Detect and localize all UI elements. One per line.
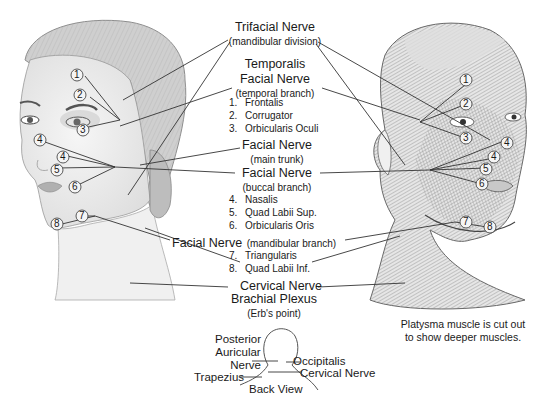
right-face-muscle-illustration (370, 23, 526, 309)
marker-7: 7 (79, 209, 85, 222)
marker-4a: 4 (504, 136, 510, 149)
marker-4b: 4 (491, 150, 497, 163)
marker-1: 1 (74, 68, 80, 81)
list-buccal-muscles: 4.Nasalis 5.Quad Labii Sup. 6.Orbiculari… (229, 193, 317, 232)
label-temporalis: Temporalis Facial Nerve (temporal branch… (210, 57, 340, 100)
marker-5: 5 (54, 163, 60, 176)
marker-1: 1 (463, 73, 469, 86)
marker-4b: 4 (60, 150, 66, 163)
label-back-view: Back View (249, 383, 302, 396)
label-trapezius: Trapezius (194, 371, 244, 384)
label-cervical-nerve-back: Cervical Nerve (300, 367, 375, 380)
label-facial-main-trunk: Facial Nerve (main trunk) (232, 138, 322, 166)
label-trifacial-nerve: Trifacial Nerve (mandibular division) (210, 20, 340, 48)
marker-8: 8 (487, 220, 493, 233)
label-posterior-auricular-nerve: Posterior Auricular Nerve (213, 333, 263, 372)
marker-5: 5 (483, 162, 489, 175)
marker-8: 8 (54, 217, 60, 230)
list-temporal-muscles: 1.Frontalis 2.Corrugator 3.Orbicularis O… (229, 96, 318, 135)
marker-3: 3 (80, 123, 86, 136)
marker-7: 7 (463, 215, 469, 228)
list-mandibular-muscles: 7.Triangularis 8.Quad Labii Inf. (229, 249, 310, 275)
label-brachial-plexus: Brachial Plexus (Erb's point) (228, 292, 320, 320)
label-facial-buccal: Facial Nerve (buccal branch) (232, 166, 322, 194)
marker-4a: 4 (37, 133, 43, 146)
marker-2: 2 (463, 97, 469, 110)
marker-6: 6 (479, 177, 485, 190)
caption-platysma: Platysma muscle is cut out to show deepe… (398, 318, 528, 344)
marker-6: 6 (72, 180, 78, 193)
marker-2: 2 (77, 88, 83, 101)
marker-3: 3 (463, 131, 469, 144)
left-face-illustration (20, 20, 186, 300)
